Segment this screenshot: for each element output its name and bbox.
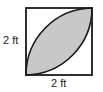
shaded-lens-region bbox=[26, 8, 92, 75]
bottom-side-label: 2 ft bbox=[51, 77, 66, 89]
left-side-label: 2 ft bbox=[3, 34, 18, 46]
